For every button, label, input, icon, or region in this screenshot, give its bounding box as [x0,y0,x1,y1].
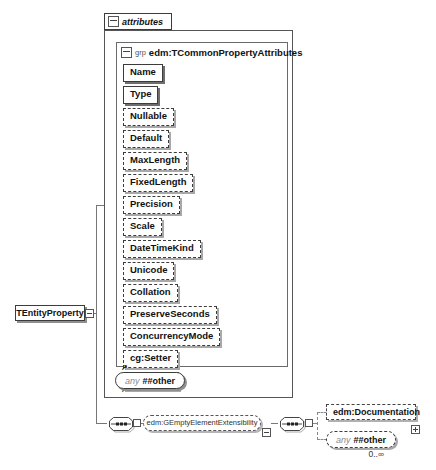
attribute-label: Collation [130,286,171,297]
attributes-tab-label: attributes [122,17,163,27]
attribute-label: Nullable [130,110,167,121]
attribute-label: Type [130,88,151,99]
attribute-box[interactable]: Nullable [123,108,174,126]
any-attribute-wildcard[interactable]: any ##other [115,372,185,389]
attribute-box[interactable]: Collation [123,284,178,302]
documentation-element-box[interactable]: edm:Documentation [326,404,416,420]
sequence-icon[interactable] [106,414,136,434]
any-prefix-label: any [336,435,351,445]
connector-line-trunk [96,205,97,424]
attribute-box[interactable]: MaxLength [123,152,187,170]
attribute-box[interactable]: PreserveSeconds [123,306,217,324]
collapse-icon[interactable] [121,47,132,58]
group-reference-box[interactable]: edm:GEmptyElementExtensibility [143,415,261,431]
attribute-box[interactable]: Type [123,86,158,104]
attribute-label: Name [130,66,156,77]
group-reference-label: edm:GEmptyElementExtensibility [147,418,258,427]
group-kind-label: grp [135,48,146,57]
connector-handle[interactable] [305,419,313,427]
attribute-box[interactable]: Precision [123,196,180,214]
attribute-label: Precision [130,198,173,209]
external-attribute-icon: ↗ [121,364,128,372]
attribute-label: DateTimeKind [130,242,194,253]
collapse-icon[interactable] [262,428,271,437]
attribute-label: PreserveSeconds [130,308,210,319]
attribute-label: FixedLength [130,176,186,187]
any-element-wildcard[interactable]: any ##other [326,431,396,448]
any-prefix-label: any [125,376,140,386]
attribute-box[interactable]: Scale [123,218,162,236]
any-namespace-label: ##other [143,376,176,386]
attributes-tab[interactable]: attributes [104,13,172,30]
attribute-group-header: grp edm:TCommonPropertyAttributes [121,47,302,58]
expand-icon[interactable] [411,425,420,434]
attribute-box[interactable]: ConcurrencyMode [123,328,220,346]
attribute-box[interactable]: Default [123,130,169,148]
attribute-list: Name Type Nullable Default [123,64,220,390]
group-title: edm:TCommonPropertyAttributes [149,47,303,58]
collapse-icon[interactable] [108,16,119,27]
attribute-box[interactable]: DateTimeKind [123,240,201,258]
attribute-label: Default [130,132,162,143]
sequence-icon[interactable] [277,414,307,434]
attribute-label: Unicode [130,264,167,275]
attribute-box[interactable]: Name [123,64,163,82]
schema-diagram: attributes grp edm:TCommonPropertyAttrib… [0,0,436,470]
attribute-label: cg:Setter [130,352,171,363]
occurrence-label: 0..∞ [326,449,384,459]
root-element-box[interactable]: TEntityProperty [15,305,85,321]
attribute-box[interactable]: FixedLength [123,174,193,192]
connector-handle[interactable] [133,419,141,427]
connector-dash-branch [317,412,318,440]
documentation-element-label: edm:Documentation [333,407,420,417]
attribute-label: ConcurrencyMode [130,330,213,341]
root-element-label: TEntityProperty [16,308,84,318]
any-namespace-label: ##other [354,435,387,445]
collapse-icon[interactable] [85,309,94,318]
attribute-label: Scale [130,220,155,231]
attribute-box[interactable]: Unicode [123,262,174,280]
attribute-label: MaxLength [130,154,180,165]
connector-line-root [94,313,97,314]
attribute-box[interactable]: ↗ cg:Setter [123,350,178,368]
attribute-group-frame: grp edm:TCommonPropertyAttributes Name T… [116,42,288,367]
